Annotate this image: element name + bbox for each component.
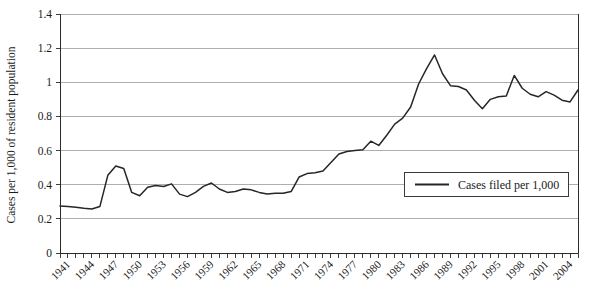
x-tick-label-1962: 1962 <box>216 258 240 282</box>
y-axis-title-text: Cases per 1,000 of resident population <box>5 46 18 223</box>
gridlines <box>60 14 578 253</box>
y-axis-tick-labels: 00.20.40.60.811.21.4 <box>38 8 60 259</box>
x-tick-label-1956: 1956 <box>168 258 192 282</box>
x-tick-label-1953: 1953 <box>144 258 168 282</box>
x-axis-ticks <box>60 253 578 258</box>
x-tick-label-1944: 1944 <box>72 258 96 282</box>
x-tick-label-1941: 1941 <box>48 258 72 282</box>
y-tick-label-0.6: 0.6 <box>38 145 53 157</box>
x-tick-label-1947: 1947 <box>96 258 120 282</box>
chart-legend: Cases filed per 1,000 <box>405 173 569 197</box>
y-axis-title: Cases per 1,000 of resident population <box>5 46 18 223</box>
y-tick-label-1.2: 1.2 <box>38 42 53 54</box>
x-tick-label-1965: 1965 <box>240 258 264 282</box>
axes <box>60 14 578 253</box>
x-tick-label-1992: 1992 <box>455 258 479 282</box>
x-tick-label-1980: 1980 <box>359 258 383 282</box>
x-tick-label-1995: 1995 <box>479 258 503 282</box>
y-tick-label-1.4: 1.4 <box>38 8 53 20</box>
y-tick-label-0.2: 0.2 <box>38 213 53 225</box>
legend-label-cases-filed: Cases filed per 1,000 <box>458 178 559 192</box>
y-tick-label-1: 1 <box>46 76 52 88</box>
x-tick-label-2001: 2001 <box>527 258 551 282</box>
x-tick-label-1986: 1986 <box>407 258 431 282</box>
x-tick-label-1998: 1998 <box>503 258 527 282</box>
y-tick-label-0: 0 <box>46 247 52 259</box>
x-tick-label-1974: 1974 <box>311 258 335 282</box>
x-tick-label-1971: 1971 <box>287 258 311 282</box>
x-tick-label-1968: 1968 <box>264 258 288 282</box>
x-tick-label-1950: 1950 <box>120 258 144 282</box>
x-tick-label-1977: 1977 <box>335 258 359 282</box>
x-tick-label-1983: 1983 <box>383 258 407 282</box>
line-chart: 00.20.40.60.811.21.4 1941194419471950195… <box>0 0 607 299</box>
x-axis-tick-labels: 1941194419471950195319561959196219651968… <box>48 258 574 282</box>
x-tick-label-1959: 1959 <box>192 258 216 282</box>
y-tick-label-0.8: 0.8 <box>38 110 53 122</box>
x-tick-label-1989: 1989 <box>431 258 455 282</box>
y-tick-label-0.4: 0.4 <box>38 179 53 191</box>
chart-container: 00.20.40.60.811.21.4 1941194419471950195… <box>0 0 607 299</box>
x-tick-label-2004: 2004 <box>550 258 574 282</box>
